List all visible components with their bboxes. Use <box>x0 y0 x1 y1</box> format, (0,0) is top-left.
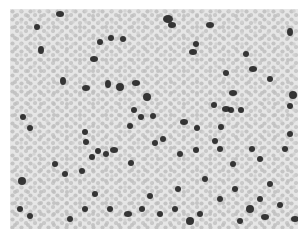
stained-cell <box>163 15 173 23</box>
stained-cell <box>95 148 101 154</box>
stained-cell <box>267 181 273 187</box>
stained-cell <box>218 124 224 130</box>
stained-cell <box>212 138 218 144</box>
stained-cell <box>82 206 88 212</box>
stained-cell <box>116 83 124 91</box>
stained-cell <box>287 131 293 137</box>
stained-cell <box>289 91 297 99</box>
stained-cell <box>38 46 44 54</box>
stained-cell <box>228 107 234 113</box>
stained-cell <box>189 49 197 55</box>
stained-cell <box>238 107 244 113</box>
stained-cell <box>237 218 243 224</box>
stained-cell <box>27 125 33 131</box>
stained-cell <box>257 156 263 162</box>
stained-cell <box>217 146 223 152</box>
stained-cell <box>139 206 145 212</box>
stained-cell <box>232 186 238 192</box>
stained-cell <box>131 107 137 113</box>
stained-cell <box>223 70 229 76</box>
stained-cell <box>194 125 200 131</box>
stained-cell <box>132 80 140 86</box>
stained-cell <box>180 119 188 125</box>
stained-cell <box>230 161 236 167</box>
stained-cell <box>197 211 203 217</box>
stained-cell <box>157 211 163 217</box>
stained-cell <box>246 205 254 213</box>
stained-cell <box>243 51 249 57</box>
stained-cell <box>62 171 68 177</box>
stained-cell <box>82 85 90 91</box>
stained-cell <box>282 146 288 152</box>
stained-cell <box>193 41 199 47</box>
stained-cell <box>152 140 158 146</box>
stained-cell <box>229 90 237 96</box>
stained-cell <box>202 176 208 182</box>
stained-cell <box>287 103 293 109</box>
stained-cell <box>217 196 223 202</box>
stained-cell <box>160 136 166 142</box>
stained-cell <box>110 147 118 153</box>
stained-cell <box>90 56 98 62</box>
stained-cell <box>249 66 257 72</box>
stained-cell <box>172 206 178 212</box>
stained-cell <box>92 191 98 197</box>
stained-cell <box>56 11 64 17</box>
stained-cell <box>186 217 194 225</box>
stained-cell <box>60 77 66 85</box>
stained-cell <box>82 129 88 135</box>
stained-cell <box>89 154 95 160</box>
stained-cell <box>193 147 199 153</box>
stained-cell <box>83 139 89 145</box>
microscopy-image <box>10 9 298 229</box>
stained-cell <box>67 216 73 222</box>
stained-cell <box>143 93 151 101</box>
stained-cell <box>206 22 214 28</box>
stained-cell <box>52 161 58 167</box>
stained-cell <box>105 80 111 88</box>
stained-cell <box>177 151 183 157</box>
stained-cell <box>277 202 283 208</box>
stained-cell <box>175 186 181 192</box>
stained-cell <box>287 28 293 36</box>
stained-cell <box>168 22 176 28</box>
stained-cell <box>17 206 23 212</box>
stained-cell <box>261 214 269 220</box>
stained-cell <box>150 113 156 119</box>
stained-cell <box>79 168 85 174</box>
stained-cell <box>107 206 113 212</box>
stained-cell <box>97 39 103 45</box>
stained-cell <box>127 123 133 129</box>
stained-cell <box>120 36 126 42</box>
blood-smear-canvas <box>10 9 298 229</box>
stained-cell <box>257 196 263 202</box>
stained-cell <box>18 177 26 185</box>
stained-cell <box>211 102 217 108</box>
stained-cell <box>108 35 114 41</box>
stained-cell <box>124 211 132 217</box>
stained-cell <box>20 114 26 120</box>
stained-cell <box>267 76 273 82</box>
stained-cell <box>128 160 134 166</box>
stained-cell <box>27 213 33 219</box>
stained-cell <box>103 151 109 157</box>
stained-cell <box>34 24 40 30</box>
stained-cell <box>147 193 153 199</box>
stained-cell <box>138 114 144 120</box>
stained-cell <box>249 146 255 152</box>
